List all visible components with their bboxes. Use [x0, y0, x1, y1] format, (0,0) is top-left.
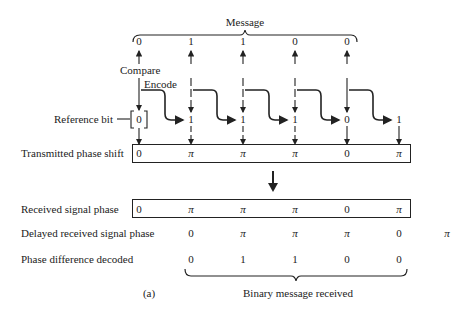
- decoded-bit: 1: [292, 253, 298, 265]
- message-title: Message: [226, 16, 265, 28]
- received-phase: 0: [344, 203, 350, 215]
- received-phase: 0: [136, 203, 142, 215]
- figure-tag: (a): [143, 287, 155, 299]
- encode-label: Encode: [144, 78, 177, 90]
- message-bit: 1: [240, 35, 246, 47]
- transmitted-phase: π: [292, 147, 298, 159]
- message-bit: 0: [344, 35, 350, 47]
- transmitted-phase-shift-label: Transmitted phase shift: [21, 147, 124, 159]
- transmitted-phase-box: [132, 144, 411, 163]
- phase-difference-label: Phase difference decoded: [21, 253, 133, 265]
- delayed-phase-label: Delayed received signal phase: [21, 227, 154, 239]
- received-phase-box: [132, 199, 411, 218]
- transmitted-phase: π: [240, 147, 246, 159]
- decoded-bit: 1: [240, 253, 246, 265]
- transmitted-phase: 0: [344, 147, 350, 159]
- delayed-phase: π: [240, 227, 246, 239]
- reference-bit-label: Reference bit: [54, 113, 113, 125]
- transmitted-phase: π: [396, 147, 402, 159]
- delayed-phase: 0: [188, 227, 194, 239]
- encoded-bit: 1: [240, 113, 246, 125]
- received-brace: [185, 269, 407, 281]
- transmitted-phase: π: [188, 147, 194, 159]
- decoded-bit: 0: [344, 253, 350, 265]
- received-phase: π: [396, 203, 402, 215]
- compare-label: Compare: [120, 64, 160, 76]
- received-phase: π: [188, 203, 194, 215]
- delayed-phase: π: [292, 227, 298, 239]
- message-bit: 0: [292, 35, 298, 47]
- message-bit: 0: [136, 35, 142, 47]
- encoded-bit: 1: [188, 113, 194, 125]
- encoded-bit: 0: [344, 113, 350, 125]
- binary-message-received-label: Binary message received: [243, 287, 353, 299]
- delayed-phase: 0: [396, 227, 402, 239]
- transmitted-phase: 0: [136, 147, 142, 159]
- received-signal-phase-label: Received signal phase: [21, 203, 119, 215]
- reference-bit-value: 0: [136, 113, 142, 125]
- decoded-bit: 0: [188, 253, 194, 265]
- message-bit: 1: [188, 35, 194, 47]
- decoded-bit: 0: [396, 253, 402, 265]
- received-phase: π: [292, 203, 298, 215]
- delayed-phase: π: [344, 227, 350, 239]
- received-phase: π: [240, 203, 246, 215]
- encoded-bit: 1: [396, 113, 402, 125]
- encoded-bit: 1: [292, 113, 298, 125]
- delayed-phase: π: [444, 227, 450, 239]
